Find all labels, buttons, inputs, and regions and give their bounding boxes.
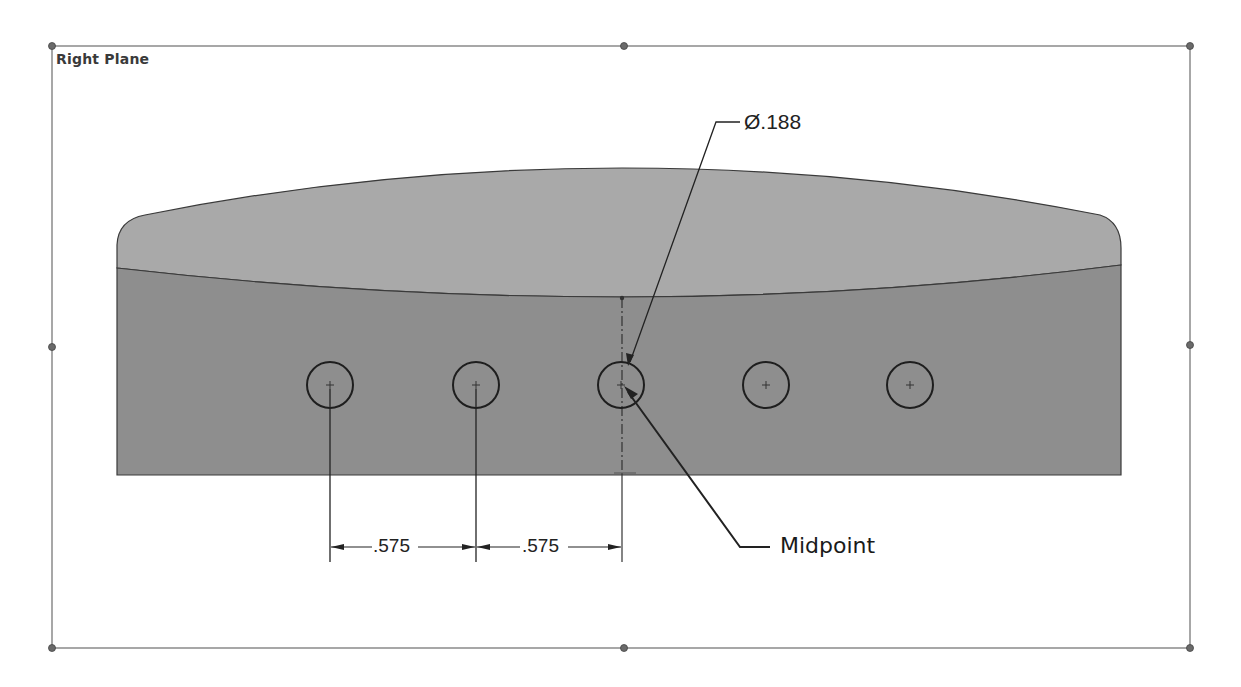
part-lower-face[interactable] xyxy=(117,265,1121,475)
graphics-viewport[interactable]: Right Plane .575 .575 Ø.188 Midpoint xyxy=(0,0,1241,687)
frame-handle-1[interactable] xyxy=(49,43,56,50)
dimension-diameter[interactable]: Ø.188 xyxy=(744,110,801,134)
part-upper-face[interactable] xyxy=(117,168,1121,297)
frame-handle-2[interactable] xyxy=(621,43,628,50)
dimension-spacing-2[interactable]: .575 xyxy=(522,535,559,557)
frame-handle-4[interactable] xyxy=(49,344,56,351)
plane-label: Right Plane xyxy=(56,51,149,67)
frame-handle-8[interactable] xyxy=(1187,645,1194,652)
midpoint-callout-label: Midpoint xyxy=(780,533,875,558)
frame-handle-3[interactable] xyxy=(1187,43,1194,50)
dimension-spacing-1[interactable]: .575 xyxy=(373,535,410,557)
part-body[interactable] xyxy=(117,168,1121,475)
frame-handle-6[interactable] xyxy=(49,645,56,652)
frame-handle-5[interactable] xyxy=(1187,342,1194,349)
frame-handle-7[interactable] xyxy=(621,645,628,652)
